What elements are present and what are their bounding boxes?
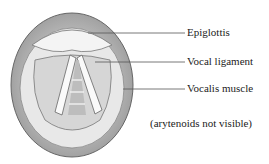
label-epiglottis: Epiglottis [187,26,230,38]
larynx-drawing [11,13,133,157]
caption: (arytenoids not visible) [150,117,252,129]
label-vocal-ligament: Vocal ligament [187,55,253,67]
label-vocalis-muscle: Vocalis muscle [187,82,253,94]
